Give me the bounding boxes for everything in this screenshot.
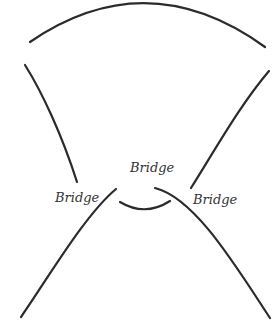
left-lower-strand — [21, 189, 116, 317]
left-upper-strand — [25, 65, 77, 182]
bottom-small-arc — [120, 201, 170, 209]
top-arc — [30, 3, 265, 47]
right-lower-strand — [155, 188, 270, 318]
bridge-label-left: Bridge — [55, 191, 99, 204]
right-upper-strand — [191, 71, 269, 188]
bridge-label-center: Bridge — [130, 161, 174, 174]
bridge-label-right: Bridge — [193, 193, 237, 206]
